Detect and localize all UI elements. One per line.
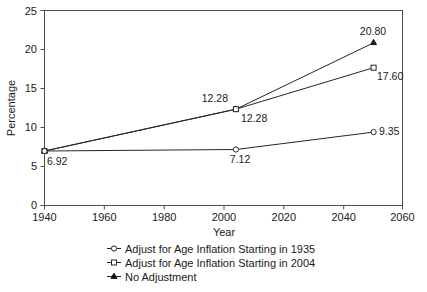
x-axis-tick-labels: 1940 1960 1980 2000 2020 2040 2060 xyxy=(32,211,414,223)
data-label-12-28-lower: 12.28 xyxy=(241,112,267,124)
x-tick-label: 1940 xyxy=(32,211,56,223)
legend-item-no-adjustment[interactable]: No Adjustment xyxy=(107,271,197,283)
y-tick-label: 0 xyxy=(31,199,37,211)
legend-label: Adjust for Age Inflation Starting in 200… xyxy=(125,257,315,269)
plot-frame xyxy=(45,11,403,206)
chart-legend: Adjust for Age Inflation Starting in 193… xyxy=(107,243,315,283)
legend-item-adjust-2004[interactable]: Adjust for Age Inflation Starting in 200… xyxy=(107,257,315,269)
data-point-labels: 6.92 7.12 12.28 12.28 9.35 17.60 20.80 xyxy=(47,25,403,167)
data-label-12-28-upper: 12.28 xyxy=(202,92,228,104)
y-tick-label: 20 xyxy=(25,43,37,55)
x-tick-label: 1960 xyxy=(92,211,116,223)
series-adjust-2004 xyxy=(42,65,376,153)
marker-triangle xyxy=(371,39,377,44)
x-tick-label: 1980 xyxy=(152,211,176,223)
y-tick-label: 5 xyxy=(31,160,37,172)
y-axis-title: Percentage xyxy=(5,80,17,136)
chart-figure: 0 5 10 15 20 25 1940 1960 1980 2000 2020… xyxy=(0,0,427,292)
marker-square xyxy=(233,107,238,112)
data-label-20-80: 20.80 xyxy=(360,25,386,37)
data-label-9-35: 9.35 xyxy=(379,125,400,137)
x-tick-label: 2020 xyxy=(272,211,296,223)
y-tick-label: 25 xyxy=(25,5,37,17)
data-label-7-12: 7.12 xyxy=(230,153,251,165)
x-tick-label: 2040 xyxy=(331,211,355,223)
marker-circle xyxy=(233,147,238,152)
legend-marker-square-icon xyxy=(112,260,117,265)
y-axis-ticks xyxy=(41,11,45,206)
marker-circle xyxy=(42,148,47,153)
legend-label: Adjust for Age Inflation Starting in 193… xyxy=(125,243,315,255)
series-line-adjust-1935 xyxy=(45,132,374,151)
series-adjust-1935 xyxy=(42,130,376,154)
x-tick-label: 2060 xyxy=(390,211,414,223)
chart-canvas: 0 5 10 15 20 25 1940 1960 1980 2000 2020… xyxy=(0,0,427,292)
x-axis-title: Year xyxy=(213,226,236,238)
marker-square xyxy=(371,65,376,70)
legend-marker-triangle-icon xyxy=(111,273,117,278)
data-label-17-60: 17.60 xyxy=(377,70,403,82)
legend-marker-circle-icon xyxy=(111,246,116,251)
y-tick-label: 15 xyxy=(25,82,37,94)
x-axis-ticks xyxy=(45,206,403,210)
y-axis-tick-labels: 0 5 10 15 20 25 xyxy=(25,5,37,211)
x-tick-label: 2000 xyxy=(212,211,236,223)
data-label-6-92: 6.92 xyxy=(47,155,68,167)
legend-item-adjust-1935[interactable]: Adjust for Age Inflation Starting in 193… xyxy=(107,243,315,255)
y-tick-label: 10 xyxy=(25,121,37,133)
marker-circle xyxy=(371,130,376,135)
legend-label: No Adjustment xyxy=(125,271,197,283)
